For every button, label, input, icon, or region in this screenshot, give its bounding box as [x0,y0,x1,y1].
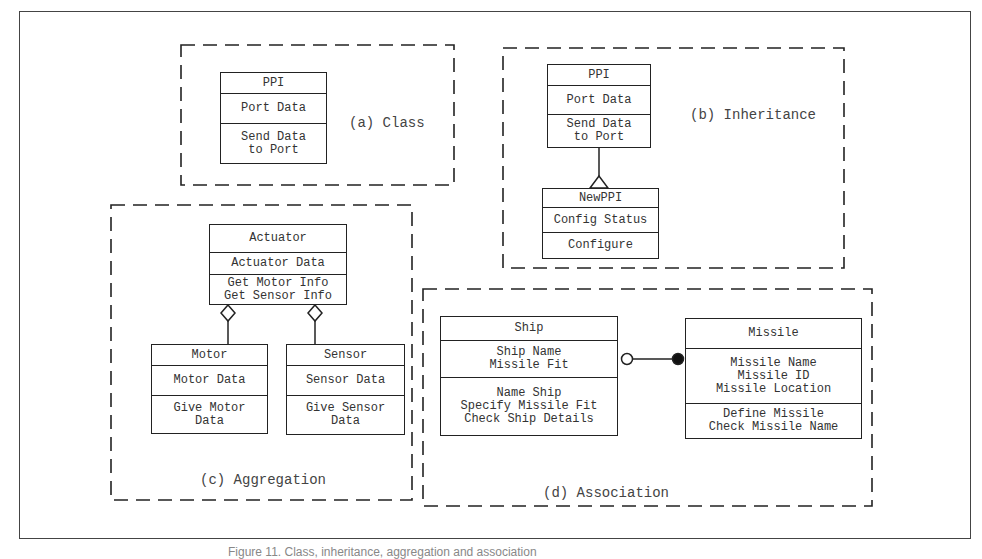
class-operations: Give Motor Data [152,395,267,433]
class-operations: Define Missile Check Missile Name [686,403,861,438]
class-attributes: Missile Name Missile ID Missile Location [686,348,861,403]
class-name: Ship [441,317,617,340]
class-attributes: Config Status [543,207,658,232]
class-name: Actuator [210,225,346,252]
class-operations: Send Data to Port [548,114,650,147]
class-operations: Configure [543,232,658,258]
class-box-missile: Missile Missile Name Missile ID Missile … [685,318,862,439]
class-operations: Send Data to Port [221,123,326,163]
class-name: Motor [152,345,267,365]
class-box-sensor: Sensor Sensor Data Give Sensor Data [286,344,405,435]
class-box-newppi: NewPPI Config Status Configure [542,188,659,259]
class-box-ppi: PPI Port Data Send Data to Port [220,72,327,164]
open-circle-icon [622,354,633,365]
class-attributes: Sensor Data [287,365,404,395]
filled-circle-icon [673,354,684,365]
class-operations: Name Ship Specify Missile Fit Check Ship… [441,377,617,435]
class-box-ppi-parent: PPI Port Data Send Data to Port [547,64,651,148]
aggregation-diamond-icon [308,305,322,321]
class-attributes: Port Data [548,85,650,114]
class-name: PPI [548,65,650,85]
class-name: Missile [686,319,861,348]
class-attributes: Motor Data [152,365,267,395]
figure-caption: Figure 11. Class, inheritance, aggregati… [228,545,537,559]
class-name: NewPPI [543,189,658,207]
panel-label-aggregation: (c) Aggregation [200,472,326,488]
class-box-motor: Motor Motor Data Give Motor Data [151,344,268,434]
class-attributes: Port Data [221,93,326,123]
panel-label-association: (d) Association [543,485,669,501]
aggregation-diamond-icon [221,305,235,321]
class-box-ship: Ship Ship Name Missile Fit Name Ship Spe… [440,316,618,436]
class-name: PPI [221,73,326,93]
class-operations: Give Sensor Data [287,395,404,434]
class-box-actuator: Actuator Actuator Data Get Motor Info Ge… [209,224,347,305]
panel-label-inheritance: (b) Inheritance [690,107,816,123]
class-operations: Get Motor Info Get Sensor Info [210,274,346,304]
class-attributes: Actuator Data [210,252,346,274]
class-attributes: Ship Name Missile Fit [441,340,617,377]
class-name: Sensor [287,345,404,365]
panel-label-class: (a) Class [349,115,425,131]
generalization-triangle-icon [590,176,608,188]
